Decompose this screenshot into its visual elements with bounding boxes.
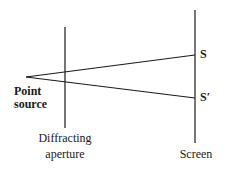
ray-to-S (26, 55, 195, 77)
diffraction-diagram: Point source Diffracting aperture Screen… (0, 0, 228, 169)
point-S-prime-label: S′ (200, 91, 210, 104)
aperture-label: Diffracting aperture (36, 132, 94, 161)
aperture-label-line1: Diffracting (36, 132, 94, 145)
point-source-label-line2: source (14, 98, 47, 111)
point-S-label: S (200, 48, 207, 61)
point-source-label: Point source (14, 85, 47, 111)
aperture-label-line2: aperture (36, 148, 94, 161)
screen-label: Screen (176, 148, 216, 161)
ray-to-S-prime (26, 77, 195, 98)
